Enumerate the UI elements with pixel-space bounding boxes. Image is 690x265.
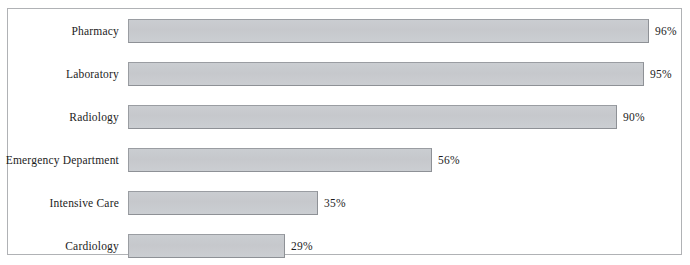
chart-frame: Pharmacy 96% Laboratory 95% Radiology 90… bbox=[7, 8, 682, 255]
value-label: 35% bbox=[324, 197, 346, 209]
value-label: 56% bbox=[438, 154, 460, 166]
value-label: 29% bbox=[291, 240, 313, 252]
value-label: 95% bbox=[650, 68, 672, 80]
bar-intensive-care bbox=[128, 191, 318, 215]
bar-row: Emergency Department 56% bbox=[8, 148, 681, 172]
category-label: Pharmacy bbox=[71, 25, 119, 37]
bar-emergency-department bbox=[128, 148, 432, 172]
bar-row: Radiology 90% bbox=[8, 105, 681, 129]
plot-area: Pharmacy 96% Laboratory 95% Radiology 90… bbox=[8, 9, 681, 254]
category-label: Intensive Care bbox=[49, 197, 119, 209]
category-label: Laboratory bbox=[66, 68, 119, 80]
bar-pharmacy bbox=[128, 19, 649, 43]
bar-radiology bbox=[128, 105, 617, 129]
category-label: Radiology bbox=[69, 111, 119, 123]
bar-cardiology bbox=[128, 234, 285, 258]
bar-row: Intensive Care 35% bbox=[8, 191, 681, 215]
bar-row: Cardiology 29% bbox=[8, 234, 681, 258]
bar-laboratory bbox=[128, 62, 644, 86]
bar-row: Pharmacy 96% bbox=[8, 19, 681, 43]
bar-row: Laboratory 95% bbox=[8, 62, 681, 86]
category-label: Cardiology bbox=[65, 240, 119, 252]
value-label: 90% bbox=[623, 111, 645, 123]
value-label: 96% bbox=[655, 25, 677, 37]
category-label: Emergency Department bbox=[6, 154, 119, 166]
